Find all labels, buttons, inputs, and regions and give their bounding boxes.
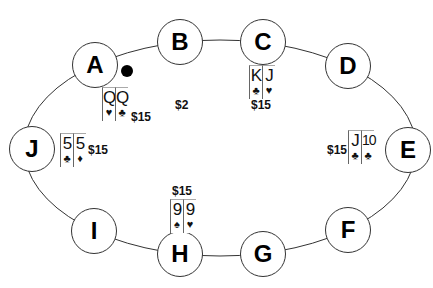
card-rank: 9: [171, 201, 183, 218]
card-rank: Q: [103, 89, 115, 106]
seat-label: A: [86, 51, 103, 79]
card-rank: J: [349, 132, 361, 149]
card-h-2: 9♥: [183, 199, 196, 233]
bet-h: $15: [172, 184, 192, 198]
card-a-2: Q♣: [115, 87, 128, 121]
seat-j: J: [9, 126, 55, 172]
bet-a: $15: [131, 110, 151, 124]
card-rank: Q: [116, 89, 128, 106]
seat-c: C: [240, 19, 286, 65]
card-j-1: 5♣: [60, 133, 73, 167]
seat-label: G: [254, 240, 273, 268]
seat-label: D: [339, 52, 356, 80]
seat-label: C: [254, 28, 271, 56]
card-j-2: 5♦: [73, 133, 86, 167]
seat-a: A: [72, 42, 118, 88]
seat-label: J: [25, 135, 38, 163]
card-rank: 5: [61, 135, 73, 152]
club-icon: ♣: [116, 106, 128, 118]
club-icon: ♣: [250, 84, 262, 96]
seat-g: G: [240, 231, 286, 277]
bet-j: $15: [88, 143, 108, 157]
club-icon: ♣: [362, 149, 374, 161]
card-rank: 9: [184, 201, 196, 218]
card-rank: 10: [362, 132, 374, 149]
seat-e: E: [385, 127, 431, 173]
card-rank: J: [263, 67, 275, 84]
seat-label: H: [171, 240, 188, 268]
card-h-1: 9♠: [170, 199, 183, 233]
bet-c: $15: [251, 98, 271, 112]
seat-f: F: [325, 207, 371, 253]
card-e-1: J♣: [348, 130, 361, 164]
card-a-1: Q♥: [102, 87, 115, 121]
seat-label: B: [171, 28, 188, 56]
seat-label: E: [400, 136, 416, 164]
seat-d: D: [325, 43, 371, 89]
card-c-2: J♥: [262, 65, 275, 99]
heart-icon: ♥: [263, 84, 275, 96]
heart-icon: ♥: [103, 106, 115, 118]
seat-label: F: [341, 216, 356, 244]
dealer-button-icon: [121, 65, 133, 77]
diamond-icon: ♦: [74, 152, 86, 164]
spade-icon: ♠: [171, 218, 183, 230]
bet-e: $15: [327, 143, 347, 157]
card-rank: 5: [74, 135, 86, 152]
club-icon: ♣: [61, 152, 73, 164]
seat-i: I: [71, 208, 117, 254]
pot: $2: [175, 98, 188, 112]
heart-icon: ♥: [184, 218, 196, 230]
card-rank: K: [250, 67, 262, 84]
card-c-1: K♣: [249, 65, 262, 99]
seat-b: B: [157, 19, 203, 65]
seat-h: H: [157, 231, 203, 277]
club-icon: ♣: [349, 149, 361, 161]
seat-label: I: [91, 217, 98, 245]
card-e-2: 10♣: [361, 130, 374, 164]
